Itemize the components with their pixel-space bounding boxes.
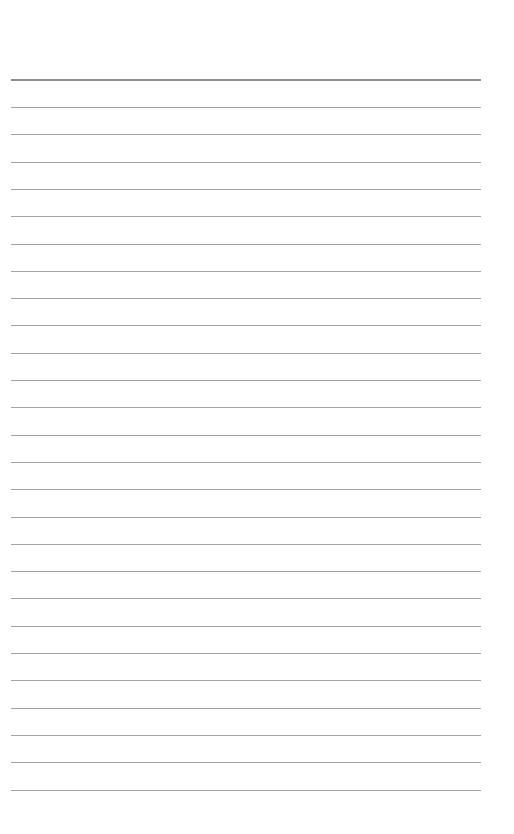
ruled-line bbox=[11, 790, 481, 791]
ruled-line bbox=[11, 708, 481, 709]
header-rule bbox=[11, 79, 481, 81]
ruled-line bbox=[11, 435, 481, 436]
ruled-line bbox=[11, 353, 481, 354]
ruled-line bbox=[11, 162, 481, 163]
ruled-line bbox=[11, 462, 481, 463]
ruled-line bbox=[11, 762, 481, 763]
ruled-line bbox=[11, 271, 481, 272]
lined-paper-page bbox=[0, 0, 514, 834]
ruled-line bbox=[11, 517, 481, 518]
ruled-line bbox=[11, 325, 481, 326]
ruled-line bbox=[11, 298, 481, 299]
ruled-line bbox=[11, 489, 481, 490]
ruled-line bbox=[11, 680, 481, 681]
ruled-line bbox=[11, 107, 481, 108]
ruled-line bbox=[11, 189, 481, 190]
ruled-line bbox=[11, 380, 481, 381]
ruled-line bbox=[11, 244, 481, 245]
ruled-line bbox=[11, 626, 481, 627]
ruled-line bbox=[11, 407, 481, 408]
ruled-line bbox=[11, 134, 481, 135]
ruled-line bbox=[11, 571, 481, 572]
ruled-line bbox=[11, 544, 481, 545]
ruled-line bbox=[11, 653, 481, 654]
ruled-line bbox=[11, 216, 481, 217]
ruled-line bbox=[11, 735, 481, 736]
ruled-line bbox=[11, 598, 481, 599]
